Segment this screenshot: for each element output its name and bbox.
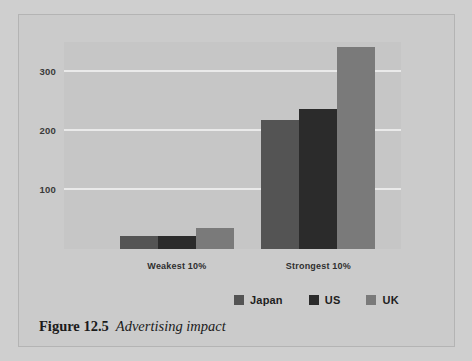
y-axis-tick-label-300: 300 (19, 66, 56, 77)
x-axis-category-label-1: Strongest 10% (258, 261, 378, 271)
bar-us-weakest-10 (158, 236, 196, 249)
legend-label-us: US (325, 294, 341, 306)
legend-swatch-japan (234, 295, 244, 305)
figure-caption-title: Advertising impact (116, 318, 226, 334)
legend-item-uk[interactable]: UK (366, 294, 398, 306)
x-axis-category-label-0: Weakest 10% (117, 261, 237, 271)
bar-us-strongest-10 (299, 109, 337, 249)
bar-uk-strongest-10 (337, 47, 375, 249)
legend-swatch-uk (366, 295, 376, 305)
figure-caption-number: Figure 12.5 (39, 318, 109, 334)
legend-label-japan: Japan (250, 294, 283, 306)
legend-item-us[interactable]: US (309, 294, 341, 306)
legend-item-japan[interactable]: Japan (234, 294, 283, 306)
chart-legend: JapanUSUK (234, 293, 399, 307)
y-axis-tick-label-200: 200 (19, 125, 56, 136)
y-axis-tick-label-100: 100 (19, 184, 56, 195)
figure-container: 100200300 Weakest 10%Strongest 10% Japan… (0, 0, 472, 361)
legend-swatch-us (309, 295, 319, 305)
bar-japan-weakest-10 (120, 236, 158, 249)
bar-uk-weakest-10 (196, 228, 234, 249)
figure-caption: Figure 12.5Advertising impact (39, 318, 226, 335)
figure-card: 100200300 Weakest 10%Strongest 10% Japan… (18, 14, 455, 347)
legend-label-uk: UK (382, 294, 398, 306)
chart-plot-area (64, 42, 401, 249)
bar-japan-strongest-10 (261, 120, 299, 249)
